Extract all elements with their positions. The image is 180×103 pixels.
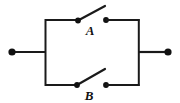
switch-b[interactable] [74,69,109,88]
switch-b-lever[interactable] [77,69,105,85]
circuit-diagram-figure: A B [0,0,180,103]
circuit-diagram-canvas: A B [0,0,180,103]
switch-b-left-contact-dot [74,82,80,88]
switch-b-label: B [84,88,94,103]
switch-a-lever[interactable] [78,6,105,21]
left-terminal-dot [8,48,15,55]
switch-a[interactable] [75,6,109,23]
right-terminal-dot [164,48,171,55]
switch-a-label: A [85,23,95,38]
switch-a-left-contact-dot [75,18,81,24]
